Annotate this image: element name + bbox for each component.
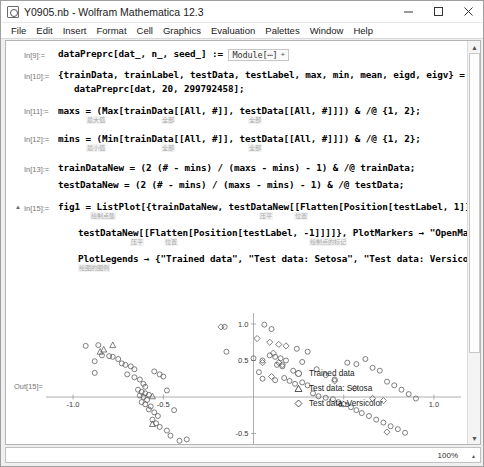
code-text: dataPreprc[dat_, n_, seed_] :=	[58, 48, 228, 59]
code-line-15-3: PlotLegends → {"Trained data", "Test dat…	[78, 253, 468, 264]
hint-all-1: 全部	[161, 116, 175, 124]
hint-all-3: 全部	[161, 144, 175, 152]
in-label-12: In[12]:=	[24, 135, 49, 144]
maximize-button[interactable]	[423, 1, 453, 23]
minimize-button[interactable]	[393, 1, 423, 23]
hint-listplot: 绘制点集	[90, 212, 116, 220]
code-line-11-1: maxs = (Max[trainData[[All, #]], testDat…	[58, 105, 421, 116]
hint-flatten-1: 压平	[259, 212, 273, 220]
menu-item-format[interactable]: Format	[91, 23, 131, 39]
menu-item-evaluation[interactable]: Evaluation	[206, 23, 260, 39]
code-line-13-1: trainDataNew = (2 (# - mins) / (maxs - m…	[58, 162, 415, 173]
code-line-15-1: fig1 = ListPlot[{trainDataNew, testDataN…	[58, 201, 468, 212]
in-label-9: In[9]:=	[24, 51, 45, 60]
open-diamond-icon	[292, 397, 305, 410]
notebook-document[interactable]: In[9]:= dataPreprc[dat_, n_, seed_] := M…	[5, 40, 481, 445]
legend-label-setosa: Test data: Setosa	[309, 384, 372, 393]
out-label-15: Out[15]=	[14, 382, 43, 391]
menu-item-window[interactable]: Window	[305, 23, 349, 39]
menu-item-palettes[interactable]: Palettes	[260, 23, 304, 39]
svg-text:0.5: 0.5	[238, 356, 248, 365]
zoom-caret-icon[interactable]: ▴	[472, 452, 475, 459]
menu-bar: File Edit Insert Format Cell Graphics Ev…	[1, 23, 483, 39]
svg-text:-1.0: -1.0	[67, 400, 80, 409]
hint-all-2: 全部	[248, 116, 262, 124]
expand-plus-icon[interactable]: +	[281, 50, 286, 59]
mathematica-window: Y0905.nb - Wolfram Mathematica 12.3 File…	[0, 0, 484, 467]
plot-svg: -1.0-0.50.51.0-1.0-0.50.51.0	[46, 313, 461, 444]
svg-text:1.0: 1.0	[238, 320, 248, 329]
title-bar: Y0905.nb - Wolfram Mathematica 12.3	[1, 1, 483, 23]
plot-legend: Trained data Test data: Setosa Test data…	[292, 366, 383, 411]
menu-item-edit[interactable]: Edit	[31, 23, 57, 39]
scroll-up-icon[interactable]: ▲	[468, 41, 481, 53]
in-label-13: In[13]:=	[24, 165, 49, 174]
notebook-content: In[9]:= dataPreprc[dat_, n_, seed_] := M…	[6, 41, 468, 444]
cell-expand-triangle-icon[interactable]: ▲	[15, 204, 21, 210]
in-label-10: In[10]:=	[24, 72, 49, 81]
mathematica-icon	[7, 6, 19, 18]
in-label-11: In[11]:=	[24, 107, 49, 116]
menu-item-help[interactable]: Help	[348, 23, 378, 39]
legend-row-setosa: Test data: Setosa	[292, 381, 383, 396]
window-controls	[393, 1, 483, 23]
in-label-15: In[15]:=	[24, 204, 49, 213]
code-line-12-1: mins = (Min[trainData[[All, #]], testDat…	[58, 133, 421, 144]
hint-max: 最大值	[86, 116, 106, 124]
scroll-down-icon[interactable]: ▼	[468, 432, 481, 444]
svg-text:-0.5: -0.5	[236, 429, 249, 438]
svg-text:-0.5: -0.5	[157, 400, 170, 409]
hint-position-1: 位置	[294, 212, 308, 220]
legend-row-versicolor: Test data: Versicolor	[292, 396, 383, 411]
menu-item-graphics[interactable]: Graphics	[158, 23, 206, 39]
menu-item-cell[interactable]: Cell	[132, 23, 158, 39]
legend-row-trained: Trained data	[292, 366, 383, 381]
hint-all-4: 全部	[248, 144, 262, 152]
hint-flatten-2: 压平	[130, 238, 144, 246]
zoom-level[interactable]: 100%	[438, 451, 458, 460]
legend-label-trained: Trained data	[309, 369, 355, 378]
window-title: Y0905.nb - Wolfram Mathematica 12.3	[24, 6, 393, 18]
open-circle-icon	[292, 367, 305, 380]
status-bar: 100% ▴	[5, 447, 481, 463]
hint-min: 最小值	[86, 144, 106, 152]
collapsed-module-chip[interactable]: Module[⋯]+	[228, 49, 289, 61]
hint-plotlegends: 绘图的图例	[78, 264, 110, 272]
notebook-scrollbar[interactable]: ▲ ▼	[467, 41, 480, 444]
legend-label-versicolor: Test data: Versicolor	[309, 399, 383, 408]
hint-position-2: 位置	[164, 238, 178, 246]
hint-plotmarkers: 绘制点的标记	[309, 238, 347, 246]
menu-item-file[interactable]: File	[6, 23, 31, 39]
code-line-9-1: dataPreprc[dat_, n_, seed_] := Module[⋯]…	[58, 48, 289, 61]
code-line-10-2: dataPreprc[dat, 20, 299792458];	[74, 83, 244, 94]
scrollbar-thumb[interactable]	[469, 53, 480, 353]
code-line-13-2: testDataNew = (2 (# - mins) / (maxs - mi…	[58, 179, 404, 190]
module-chip-label: Module[⋯]	[232, 50, 277, 60]
close-button[interactable]	[453, 1, 483, 23]
menu-item-insert[interactable]: Insert	[58, 23, 92, 39]
svg-text:1.0: 1.0	[429, 400, 439, 409]
code-line-15-2: testDataNew[[Flatten[Position[testLabel,…	[78, 227, 468, 238]
open-triangle-icon	[292, 382, 305, 395]
code-line-10-1: {trainData, trainLabel, testData, testLa…	[58, 69, 465, 80]
scatter-plot-output[interactable]: -1.0-0.50.51.0-1.0-0.50.51.0	[46, 313, 461, 444]
